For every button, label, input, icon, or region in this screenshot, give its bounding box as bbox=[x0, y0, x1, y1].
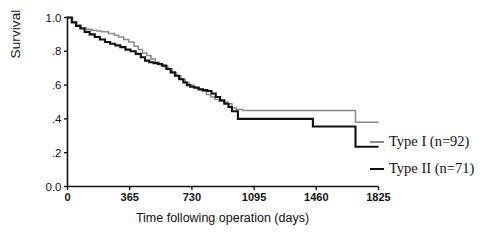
legend-item-type-1: Type I (n=92) bbox=[370, 128, 502, 155]
survival-plot: 0.0.2.4.6.81.0 0365730109514601825 bbox=[0, 0, 502, 241]
x-axis-title: Time following operation (days) bbox=[67, 211, 378, 225]
svg-text:730: 730 bbox=[183, 191, 201, 203]
legend-item-type-2: Type II (n=71) bbox=[370, 155, 502, 182]
chart-figure: Survival 0.0.2.4.6.81.0 0365730109514601… bbox=[0, 0, 502, 241]
legend-line-icon-type-1 bbox=[370, 141, 384, 143]
svg-text:365: 365 bbox=[121, 191, 139, 203]
x-axis-ticks: 0365730109514601825 bbox=[64, 187, 390, 204]
chart-legend: Type I (n=92) Type II (n=71) bbox=[370, 128, 502, 182]
svg-text:0.0: 0.0 bbox=[46, 181, 62, 193]
svg-text:1.0: 1.0 bbox=[46, 12, 62, 24]
legend-line-icon-type-2 bbox=[370, 168, 384, 170]
survival-curve-2 bbox=[68, 18, 379, 147]
legend-label-type-2: Type II (n=71) bbox=[389, 160, 474, 177]
survival-curves bbox=[68, 18, 379, 147]
svg-text:1460: 1460 bbox=[304, 191, 328, 203]
svg-text:.8: .8 bbox=[52, 45, 62, 57]
svg-text:.6: .6 bbox=[52, 79, 62, 91]
y-axis-ticks: 0.0.2.4.6.81.0 bbox=[46, 12, 68, 193]
svg-text:1095: 1095 bbox=[242, 191, 266, 203]
svg-text:.2: .2 bbox=[52, 147, 62, 159]
svg-text:1825: 1825 bbox=[366, 191, 390, 203]
legend-label-type-1: Type I (n=92) bbox=[389, 133, 469, 150]
survival-curve-1 bbox=[68, 18, 379, 123]
svg-text:0: 0 bbox=[64, 191, 70, 203]
svg-text:.4: .4 bbox=[52, 113, 62, 125]
